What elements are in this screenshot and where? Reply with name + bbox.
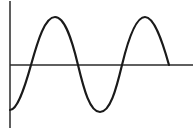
sine-wave-chart	[0, 0, 193, 130]
